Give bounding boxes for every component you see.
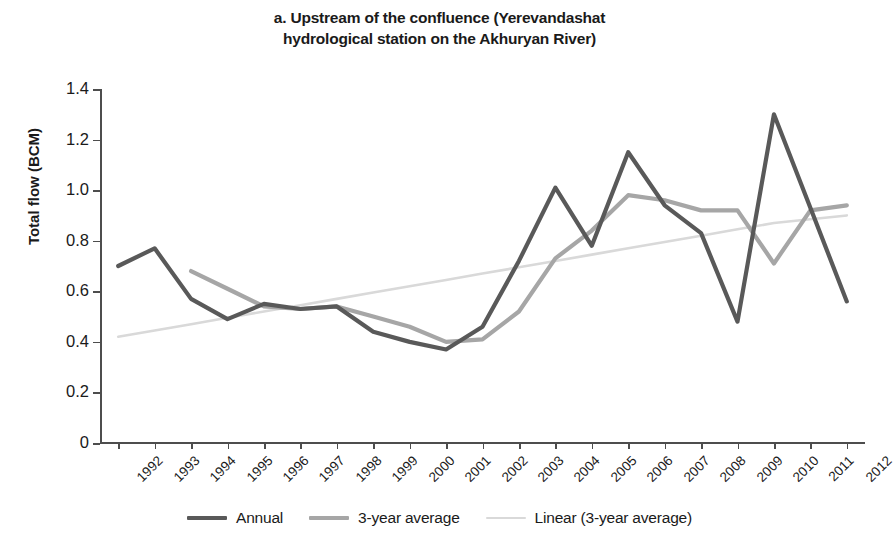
y-tick <box>93 89 100 91</box>
x-tick-label: 1995 <box>243 453 275 485</box>
x-tick <box>191 442 193 449</box>
series-layer <box>100 89 865 443</box>
x-tick <box>446 442 448 449</box>
x-tick <box>701 442 703 449</box>
x-tick <box>738 442 740 449</box>
legend-label: 3-year average <box>358 509 459 527</box>
x-tick <box>519 442 521 449</box>
x-tick <box>592 442 594 449</box>
legend-item[interactable]: 3-year average <box>309 509 459 527</box>
y-tick <box>93 443 100 445</box>
x-tick-label: 2008 <box>717 453 749 485</box>
legend-item[interactable]: Annual <box>187 509 283 527</box>
x-tick <box>118 442 120 449</box>
x-tick-label: 2007 <box>680 453 712 485</box>
x-tick <box>628 442 630 449</box>
legend-label: Annual <box>236 509 283 527</box>
x-tick-label: 1999 <box>389 453 421 485</box>
chart-legend: Annual3-year averageLinear (3-year avera… <box>0 509 879 527</box>
x-tick-label: 2000 <box>425 453 457 485</box>
y-tick-label: 1.2 <box>66 130 89 149</box>
x-tick <box>774 442 776 449</box>
y-tick-label: 0.2 <box>66 383 89 402</box>
x-tick-label: 2001 <box>462 453 494 485</box>
x-tick-label: 1992 <box>134 453 166 485</box>
y-axis-title: Total flow (BCM) <box>25 62 42 312</box>
legend-swatch <box>309 516 349 520</box>
plot-area: 00.20.40.60.81.01.21.4 19921993199419951… <box>100 89 865 443</box>
x-tick <box>555 442 557 449</box>
series-line-annual <box>118 114 847 349</box>
x-tick-label: 2002 <box>498 453 530 485</box>
x-tick <box>410 442 412 449</box>
y-tick-label: 0 <box>80 433 89 452</box>
x-tick-label: 2004 <box>571 453 603 485</box>
legend-swatch <box>486 517 526 520</box>
x-tick <box>810 442 812 449</box>
legend-swatch <box>187 516 227 520</box>
x-tick <box>264 442 266 449</box>
legend-label: Linear (3-year average) <box>535 509 692 527</box>
x-tick <box>373 442 375 449</box>
y-tick <box>93 291 100 293</box>
x-tick-label: 2010 <box>790 453 822 485</box>
legend-item[interactable]: Linear (3-year average) <box>486 509 692 527</box>
x-tick-label: 1998 <box>353 453 385 485</box>
chart-title-line-2: hydrological station on the Akhuryan Riv… <box>0 29 879 50</box>
y-tick <box>93 342 100 344</box>
x-tick-label: 1993 <box>170 453 202 485</box>
y-tick <box>93 190 100 192</box>
y-tick-label: 0.8 <box>66 231 89 250</box>
x-tick <box>483 442 485 449</box>
x-tick-label: 1994 <box>207 453 239 485</box>
x-tick-label: 2009 <box>753 453 785 485</box>
x-tick-label: 2003 <box>535 453 567 485</box>
y-tick-label: 0.6 <box>66 281 89 300</box>
y-tick <box>93 392 100 394</box>
x-tick <box>228 442 230 449</box>
x-tick <box>300 442 302 449</box>
chart-title-line-1: a. Upstream of the confluence (Yerevanda… <box>0 8 879 29</box>
x-tick <box>155 442 157 449</box>
y-tick-label: 1.0 <box>66 180 89 199</box>
x-tick <box>847 442 849 449</box>
y-tick <box>93 140 100 142</box>
x-tick-label: 2011 <box>826 453 857 484</box>
x-tick <box>665 442 667 449</box>
y-tick-label: 1.4 <box>66 79 89 98</box>
x-tick-label: 1997 <box>316 453 348 485</box>
x-tick <box>337 442 339 449</box>
y-tick <box>93 241 100 243</box>
x-tick-label: 2012 <box>863 453 894 485</box>
y-tick-label: 0.4 <box>66 332 89 351</box>
x-tick-label: 1996 <box>280 453 312 485</box>
x-tick-label: 2006 <box>644 453 676 485</box>
chart-title: a. Upstream of the confluence (Yerevanda… <box>0 8 879 50</box>
x-tick-label: 2005 <box>608 453 640 485</box>
